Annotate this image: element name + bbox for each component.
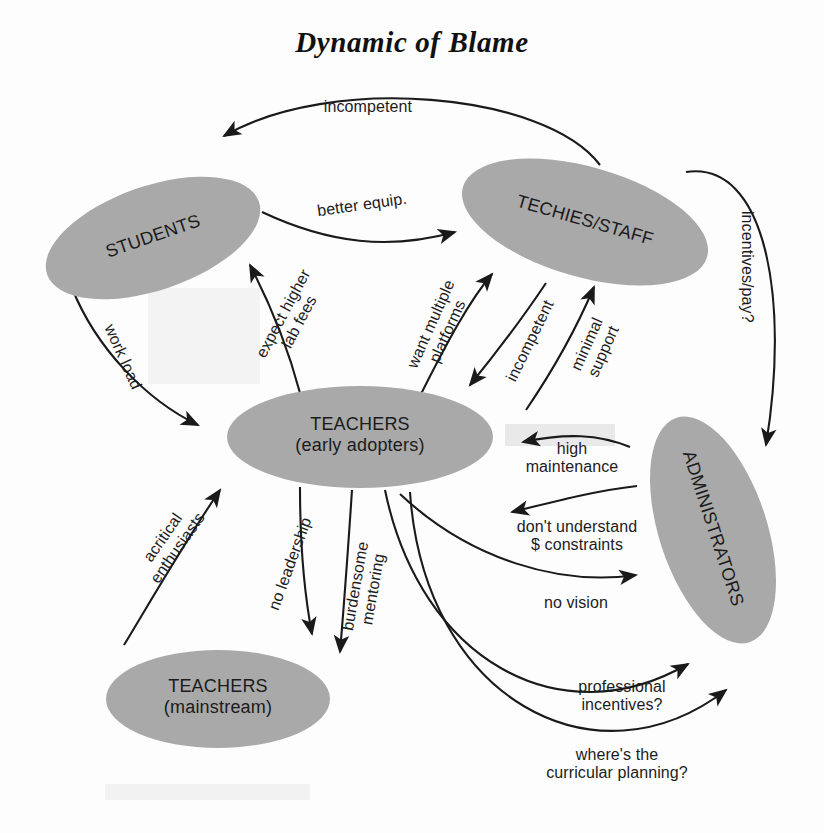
edge-high-maintenance — [523, 436, 630, 447]
edge-no-vision — [400, 494, 636, 577]
edge-incompetent-techies-students — [224, 98, 600, 165]
edge-minimal-support — [526, 287, 594, 410]
edge-expect-higher-lab-fees — [250, 265, 300, 393]
edge-burdensome-mentoring — [340, 490, 352, 652]
edge-acritical-enthusiasts — [124, 490, 220, 645]
diagram-canvas: Dynamic of Blame STUDENTS TECHIES/STAFF … — [0, 0, 824, 833]
edge-no-leadership — [300, 487, 312, 634]
edge-incompetent-techies-teachers — [470, 283, 546, 385]
edges-layer — [0, 0, 824, 833]
edge-want-multiple-platforms — [418, 274, 492, 400]
edge-dont-understand-constraints — [512, 486, 637, 512]
edge-incentives-pay — [686, 171, 775, 445]
edge-better-equip — [262, 212, 455, 242]
page-title: Dynamic of Blame — [0, 26, 824, 59]
edge-work-load — [72, 288, 198, 425]
edge-curricular-planning — [410, 492, 726, 731]
